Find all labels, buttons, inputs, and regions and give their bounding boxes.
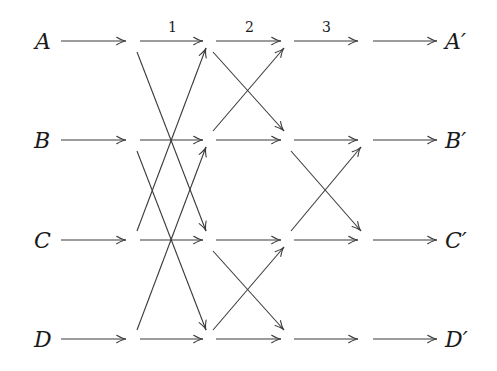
output-label-b: B′: [444, 128, 466, 153]
input-label-b: B: [33, 128, 50, 153]
input-label-a: A: [33, 29, 51, 54]
output-edge-a: [373, 37, 437, 44]
stage-2-edge-d: [216, 335, 281, 342]
stage-label-2: 2: [245, 19, 254, 35]
input-edge-c: [61, 236, 126, 243]
labels-layer: A B C D A′ B′ C′ D′ 1 2 3: [33, 19, 468, 352]
input-edge-a: [61, 37, 126, 44]
stage-2-edge-a: [216, 37, 281, 44]
stage-1-edge-a: [140, 37, 203, 44]
stage-label-3: 3: [322, 19, 331, 35]
input-label-c: C: [34, 228, 51, 253]
input-edge-b: [61, 136, 126, 143]
butterfly-network-diagram: A B C D A′ B′ C′ D′ 1 2 3: [0, 0, 497, 371]
output-label-c: C′: [445, 228, 467, 253]
stage-3-edge-b: [294, 136, 358, 143]
output-edge-c: [373, 236, 437, 243]
output-label-d: D′: [444, 327, 468, 352]
output-label-a: A′: [443, 29, 466, 54]
stage-2-edge-b: [216, 136, 281, 143]
output-edge-b: [373, 136, 437, 143]
stage-3-edge-d: [294, 335, 358, 342]
input-label-d: D: [33, 327, 52, 352]
stage-3-edge-c: [294, 236, 358, 243]
output-edge-d: [373, 335, 437, 342]
stage-3-edge-a: [294, 37, 358, 44]
stage-label-1: 1: [168, 19, 177, 35]
edges-layer: [61, 37, 437, 342]
stage-1-edge-d: [140, 335, 203, 342]
input-edge-d: [61, 335, 126, 342]
stage-2-edge-c: [216, 236, 281, 243]
